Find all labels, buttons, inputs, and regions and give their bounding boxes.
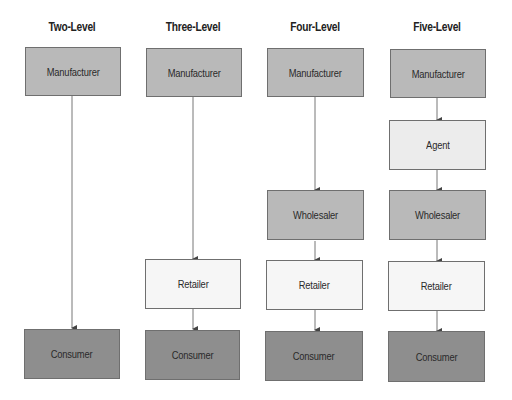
column-title-two-level: Two-Level (25, 20, 119, 34)
node-consumer: Consumer (388, 331, 485, 382)
node-consumer: Consumer (145, 330, 240, 380)
node-label: Manufacturer (289, 67, 342, 79)
node-label: Consumer (51, 348, 93, 360)
column-title-three-level: Three-Level (146, 20, 240, 34)
node-wholesaler: Wholesaler (389, 190, 486, 240)
node-manufacturer: Manufacturer (25, 47, 121, 96)
node-label: Manufacturer (167, 67, 220, 79)
node-wholesaler: Wholesaler (267, 190, 364, 240)
node-label: Retailer (299, 279, 330, 291)
node-label: Agent (426, 139, 450, 151)
node-label: Wholesaler (415, 209, 460, 221)
node-retailer: Retailer (388, 261, 485, 311)
node-label: Manufacturer (411, 68, 464, 80)
node-label: Manufacturer (46, 66, 99, 78)
node-consumer: Consumer (24, 329, 120, 379)
node-retailer: Retailer (266, 260, 363, 310)
node-manufacturer: Manufacturer (146, 48, 242, 97)
node-label: Wholesaler (293, 209, 338, 221)
node-label: Retailer (178, 278, 209, 290)
node-label: Consumer (293, 350, 335, 362)
node-manufacturer: Manufacturer (390, 49, 486, 98)
node-label: Retailer (421, 280, 452, 292)
node-label: Consumer (172, 349, 214, 361)
column-title-four-level: Four-Level (268, 20, 362, 34)
node-consumer: Consumer (265, 331, 363, 381)
node-label: Consumer (416, 351, 458, 363)
column-title-five-level: Five-Level (390, 20, 484, 34)
node-manufacturer: Manufacturer (267, 48, 364, 97)
node-agent: Agent (389, 120, 486, 170)
node-retailer: Retailer (145, 259, 241, 309)
